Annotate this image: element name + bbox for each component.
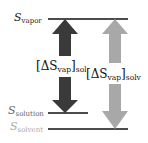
vapor-symbol: S bbox=[14, 11, 22, 24]
vapor-subscript: vapor bbox=[22, 17, 42, 25]
solvent-subscript: solvent bbox=[18, 126, 43, 134]
vapor-level-label: Svapor bbox=[14, 12, 42, 25]
solvent-level-label: Ssolvent bbox=[10, 121, 43, 134]
solv-label-sub2: solv bbox=[126, 73, 141, 82]
solv-label-sub1: vap bbox=[108, 73, 122, 82]
solution-level-label: Ssolution bbox=[8, 105, 44, 118]
solution-symbol: S bbox=[8, 104, 16, 117]
soln-label-sub1: vap bbox=[58, 65, 72, 74]
solv-arrow-label: [ΔSvap]solv bbox=[86, 68, 141, 82]
soln-label-prefix: [ΔS bbox=[36, 59, 58, 73]
solv-label-prefix: [ΔS bbox=[86, 67, 108, 81]
soln-arrow-label: [ΔSvap]soln bbox=[36, 60, 91, 74]
solution-subscript: solution bbox=[16, 110, 44, 118]
solvent-symbol: S bbox=[10, 120, 18, 133]
